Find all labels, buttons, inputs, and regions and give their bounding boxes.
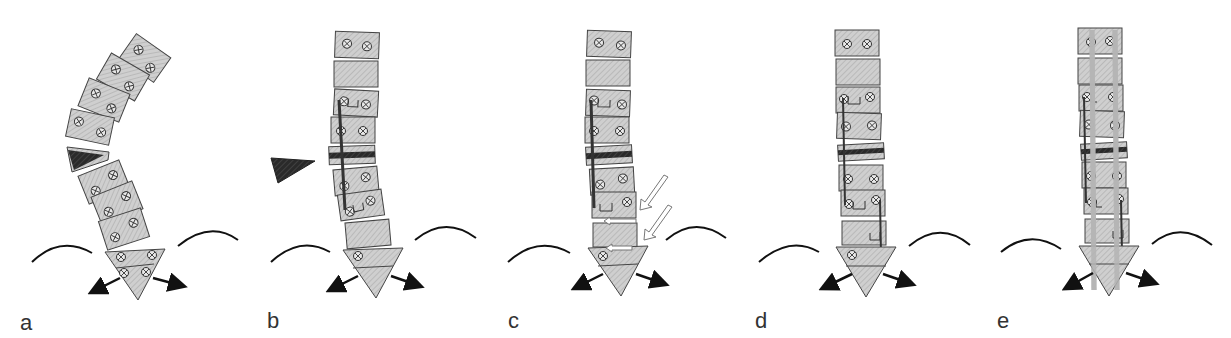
panel-label-c: c: [508, 308, 519, 334]
panel-label-e: e: [997, 308, 1009, 334]
spine-diagram: [0, 0, 1231, 338]
panel-b: [271, 31, 476, 298]
panel-label-b: b: [267, 308, 279, 334]
panel-e: [1001, 28, 1212, 296]
panel-label-d: d: [755, 308, 767, 334]
panel-c: [508, 30, 726, 296]
panel-label-a: a: [20, 310, 32, 336]
panel-d: [759, 30, 970, 297]
panel-a: [32, 34, 238, 300]
